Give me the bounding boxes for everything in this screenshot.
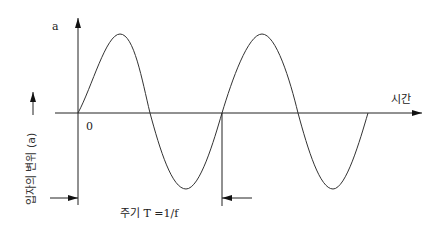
- sine-curve: [78, 34, 368, 189]
- y-axis-label: 입자의 변위 (a): [22, 133, 38, 205]
- wave-graphic: [0, 0, 444, 232]
- x-axis-label: 시간: [391, 90, 411, 106]
- origin-label: 0: [86, 120, 93, 133]
- wave-diagram: a 0 시간 주기 T =1/f 입자의 변위 (a): [0, 0, 444, 232]
- period-label: 주기 T =1/f: [120, 204, 178, 220]
- y-axis-top-label: a: [52, 20, 59, 33]
